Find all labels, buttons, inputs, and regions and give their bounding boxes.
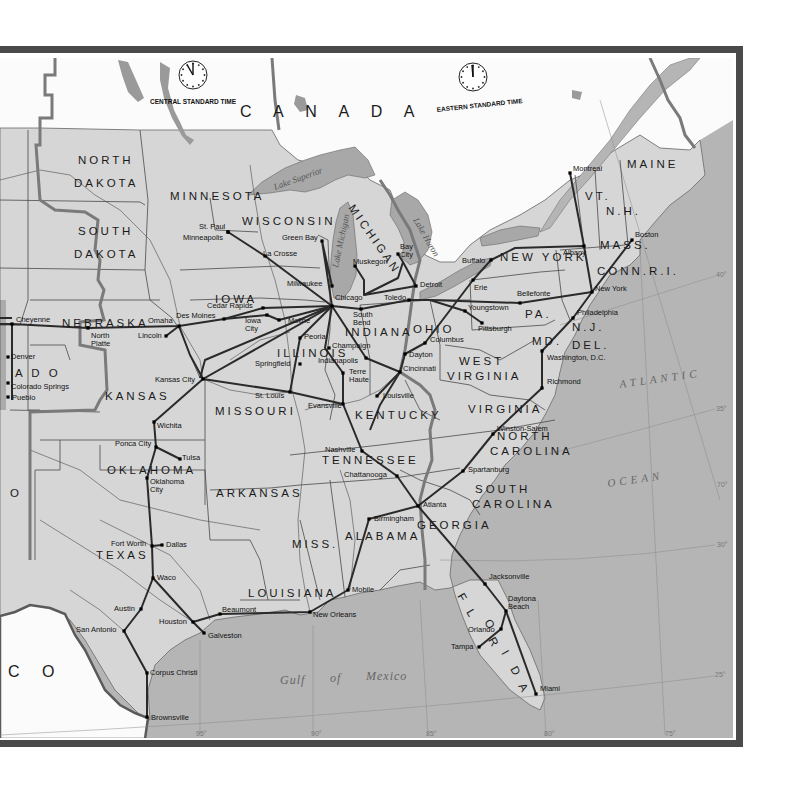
city-label: San Antonio: [76, 625, 116, 634]
city-dot-icon: [152, 420, 155, 423]
graticule-label: 80°: [544, 730, 555, 737]
state-label: OKLAHOMA: [107, 464, 196, 476]
city-denver[interactable]: Denver: [6, 352, 35, 361]
city-label: Minneapolis: [183, 233, 223, 242]
city-dot-icon: [6, 395, 9, 398]
city-dot-icon: [122, 629, 125, 632]
city-label: Cincinnati: [403, 364, 436, 373]
city-label: Miami: [540, 684, 560, 693]
water-label-gulf: Gulf: [280, 673, 306, 687]
city-columbus[interactable]: Columbus: [423, 335, 464, 345]
city-dot-icon: [477, 645, 480, 648]
city-dot-icon: [423, 341, 426, 344]
city-label: Dayton: [409, 350, 433, 359]
city-brownsville[interactable]: Brownsville: [145, 713, 189, 722]
city-green-bay[interactable]: Green Bay: [282, 233, 324, 243]
city-dot-icon: [330, 284, 333, 287]
city-dot-icon: [298, 336, 301, 339]
city-dot-icon: [201, 377, 204, 380]
city-dot-icon: [202, 631, 205, 634]
city-label: Winston-Salem: [497, 424, 548, 433]
frame-gap-bottom: [0, 738, 736, 740]
city-label: St. Paul: [199, 222, 226, 231]
city-dot-icon: [461, 469, 464, 472]
city-label: Corpus Christi: [150, 668, 198, 677]
frame-bottom: [0, 740, 742, 747]
city-dot-icon: [330, 304, 333, 307]
city-dot-icon: [288, 390, 291, 393]
city-dot-icon: [414, 284, 417, 287]
city-champaign[interactable]: Champaign: [327, 341, 370, 350]
city-label: Waco: [157, 573, 176, 582]
state-label: A D O: [15, 367, 61, 379]
city-label: Denver: [11, 352, 36, 361]
city-dot-icon: [540, 349, 543, 352]
state-label: LOUISIANA: [248, 587, 336, 599]
city-dot-icon: [177, 324, 180, 327]
city-label: Kansas City: [155, 375, 195, 384]
city-corpus-christi[interactable]: Corpus Christi: [145, 668, 197, 677]
city-la-crosse[interactable]: La Crosse: [263, 249, 297, 258]
city-cincinnati[interactable]: Cincinnati: [398, 364, 436, 374]
city-dot-icon: [416, 504, 419, 507]
state-label: CAROLINA: [490, 445, 573, 457]
city-galveston[interactable]: Galveston: [202, 631, 241, 640]
city-dot-icon: [568, 171, 571, 174]
city-birmingham[interactable]: Birmingham: [367, 514, 414, 523]
city-dot-icon: [540, 386, 543, 389]
city-dot-icon: [139, 607, 142, 610]
city-dot-icon: [145, 715, 148, 718]
state-label: CONN.R.I.: [597, 265, 679, 277]
city-label: Nashville: [325, 445, 355, 454]
city-label: BayCity: [400, 242, 413, 259]
city-tulsa[interactable]: Tulsa: [178, 453, 200, 462]
city-dot-icon: [261, 306, 264, 309]
city-colorado-springs[interactable]: Colorado Springs: [6, 381, 69, 391]
city-minneapolis[interactable]: Minneapolis: [183, 230, 230, 242]
city-dot-icon: [364, 356, 367, 359]
city-label: Youngstown: [468, 303, 509, 312]
city-dot-icon: [320, 239, 323, 242]
city-ponca-city[interactable]: Ponca City: [115, 439, 158, 449]
city-label: Orlando: [468, 625, 495, 634]
country-label-canada: C A N A D A: [240, 103, 424, 120]
country-label-mexico: C O: [8, 663, 63, 680]
city-dot-icon: [10, 322, 13, 325]
city-dot-icon: [6, 381, 9, 384]
city-dot-icon: [471, 278, 474, 281]
city-pittsburgh[interactable]: Pittsburgh: [478, 321, 512, 333]
city-dot-icon: [308, 610, 311, 613]
city-label: Pittsburgh: [478, 324, 512, 333]
city-label: Philadelphia: [577, 308, 619, 317]
state-label: MINNESOTA: [170, 190, 265, 202]
city-dot-icon: [630, 238, 633, 241]
city-dot-icon: [590, 290, 593, 293]
city-label: Moline: [288, 316, 310, 325]
state-label: WISCONSIN: [242, 215, 335, 227]
city-new-york[interactable]: New York: [590, 284, 627, 294]
city-label: Mobile: [352, 585, 374, 594]
binding-shadow: [0, 300, 6, 410]
city-label: Green Bay: [282, 233, 318, 242]
city-label: Peoria: [304, 332, 327, 341]
city-evansville[interactable]: Evansville: [308, 401, 345, 410]
city-label: Columbus: [430, 335, 464, 344]
city-dot-icon: [341, 371, 344, 374]
state-label: KANSAS: [105, 390, 170, 402]
city-label: Des Moines: [176, 311, 216, 320]
city-label: Bellefonte: [517, 289, 550, 298]
city-wichita[interactable]: Wichita: [152, 420, 182, 430]
city-new-orleans[interactable]: New Orleans: [308, 610, 356, 619]
state-label: MAINE: [627, 158, 678, 170]
time-zone-label-central: CENTRAL STANDARD TIME: [150, 98, 237, 105]
city-dot-icon: [277, 318, 280, 321]
city-dot-icon: [395, 474, 398, 477]
city-south-bend[interactable]: SouthBend: [353, 307, 373, 327]
city-label: Chattanooga: [344, 470, 388, 479]
city-dot-icon: [403, 352, 406, 355]
state-label: MISSOURI: [215, 405, 296, 417]
city-dot-icon: [518, 301, 521, 304]
city-label: Cheyenne: [16, 315, 50, 324]
city-spartanburg[interactable]: Spartanburg: [461, 465, 509, 474]
city-youngstown[interactable]: Youngstown: [463, 303, 508, 313]
